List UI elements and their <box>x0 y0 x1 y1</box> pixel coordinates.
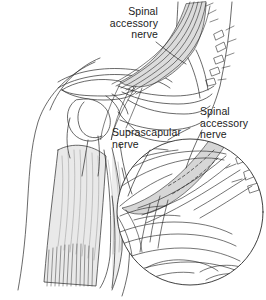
label-spinal-accessory-nerve-right: Spinal accessory nerve <box>200 106 264 141</box>
label-suprascapular-nerve: Suprascapular nerve <box>112 127 192 150</box>
label-spinal-accessory-nerve-top: Spinal accessory nerve <box>92 6 158 41</box>
anatomy-illustration <box>0 0 266 300</box>
cervical-transverse-processes <box>206 30 226 86</box>
nerve-root-ticks <box>218 26 236 80</box>
magnified-inset <box>115 137 266 289</box>
anatomical-figure: Spinal accessory nerve Spinal accessory … <box>0 0 266 300</box>
